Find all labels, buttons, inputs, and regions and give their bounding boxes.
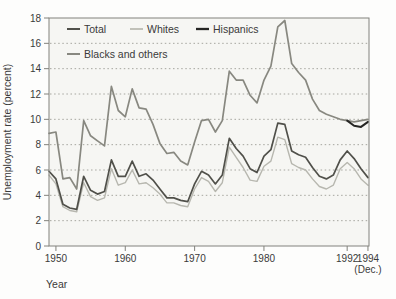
y-tick-label: 14 <box>30 63 42 74</box>
y-tick-label: 8 <box>35 139 41 150</box>
legend-label: Hispanics <box>213 23 259 35</box>
y-tick-label: 18 <box>30 13 42 24</box>
y-axis-ticks: 024681012141618 <box>30 13 49 252</box>
x-tick-label: 1970 <box>183 253 206 264</box>
legend-label: Blacks and others <box>84 48 167 60</box>
y-tick-label: 12 <box>30 89 42 100</box>
y-tick-label: 2 <box>35 215 41 226</box>
y-tick-label: 6 <box>35 165 41 176</box>
x-tick-label: 1980 <box>253 253 276 264</box>
x-axis-ticks: 195019601970198019921994(Dec.) <box>45 246 382 275</box>
x-tick-label: 1960 <box>114 253 137 264</box>
y-tick-label: 4 <box>35 190 41 201</box>
y-tick-label: 16 <box>30 38 42 49</box>
unemployment-rate-figure: 024681012141618 195019601970198019921994… <box>0 0 396 299</box>
x-tick-label: 1950 <box>45 253 68 264</box>
legend-label: Whites <box>147 23 179 35</box>
x-tick-label: 1994 <box>357 253 380 264</box>
x-tick-sublabel: (Dec.) <box>354 264 381 275</box>
y-tick-label: 0 <box>35 241 41 252</box>
legend-label: Total <box>84 23 106 35</box>
x-tick-label: 1992 <box>336 253 359 264</box>
y-axis-label: Unemployment rate (percent) <box>1 64 13 201</box>
x-axis-label: Year <box>46 278 68 290</box>
y-tick-label: 10 <box>30 114 42 125</box>
chart-canvas: 024681012141618 195019601970198019921994… <box>0 0 396 299</box>
